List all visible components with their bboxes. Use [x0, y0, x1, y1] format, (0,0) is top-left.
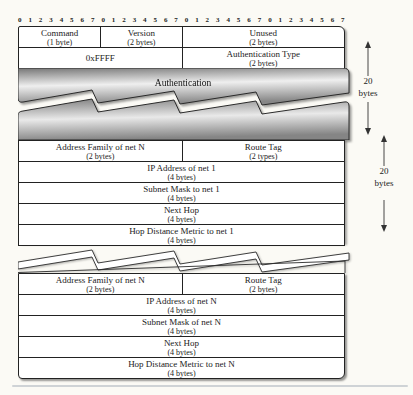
route-entry-1-table: Address Family of net N (2 bytes) Route …: [18, 140, 345, 246]
field-version: Version (2 bytes): [100, 27, 181, 47]
field-size: (4 bytes): [19, 215, 344, 224]
bit-number: 5: [237, 15, 241, 25]
field-address-family: Address Family of net N (2 bytes): [19, 274, 182, 294]
bottom-divider-line: [12, 385, 408, 387]
bit-number: 2: [206, 15, 210, 25]
bit-number: 6: [81, 15, 85, 25]
field-next-hop: Next Hop (4 bytes): [19, 203, 344, 224]
field-address-family: Address Family of net N (2 bytes): [19, 141, 182, 161]
tear-ribbon-shape: [18, 250, 349, 272]
bit-ruler: 01234567012345670123456701234567: [18, 15, 345, 25]
bit-number: 5: [320, 15, 324, 25]
bit-number: 4: [226, 15, 230, 25]
bit-number: 0: [185, 15, 189, 25]
field-label: Address Family of net N: [19, 275, 182, 285]
field-size: (2 bytes): [19, 285, 182, 294]
field-hop-distance-metric: Hop Distance Metric to net N (4 bytes): [19, 357, 344, 378]
route-entry-n-table: Address Family of net N (2 bytes) Route …: [18, 273, 345, 379]
size-label-1-value: 20: [351, 76, 385, 87]
field-label: Command: [19, 28, 100, 38]
field-subnet-mask: Subnet Mask of net N (4 bytes): [19, 315, 344, 336]
field-label: Version: [101, 28, 181, 38]
bit-number: 6: [331, 15, 335, 25]
field-next-hop: Next Hop (4 bytes): [19, 336, 344, 357]
size-label-2-unit: bytes: [367, 178, 401, 189]
authentication-torn-band: Authentication: [18, 68, 358, 140]
bit-number: 1: [112, 15, 116, 25]
entryN-row-1: Address Family of net N (2 bytes) Route …: [19, 274, 344, 294]
field-size: (4 bytes): [19, 194, 344, 203]
field-label: Unused: [183, 28, 345, 38]
field-label: Subnet Mask of net N: [19, 317, 344, 327]
field-size: (2 bytes): [183, 38, 345, 47]
field-size: (2 bytes): [183, 59, 345, 68]
field-0xffff: 0xFFFF: [19, 48, 182, 68]
auth-band-lower-shape: [18, 99, 349, 140]
bit-number: 5: [153, 15, 157, 25]
field-authentication-type: Authentication Type (2 bytes): [182, 48, 345, 68]
size-label-1-unit: bytes: [351, 88, 385, 99]
header-table: Command (1 byte) Version (2 bytes) Unuse…: [18, 26, 345, 69]
bit-number: 1: [279, 15, 283, 25]
field-label: Next Hop: [19, 338, 344, 348]
bit-number: 7: [258, 15, 262, 25]
bit-number: 4: [60, 15, 64, 25]
bit-number: 4: [143, 15, 147, 25]
field-label: Next Hop: [19, 205, 344, 215]
bit-number: 4: [310, 15, 314, 25]
field-label: Route Tag: [183, 142, 345, 152]
bit-number: 1: [28, 15, 32, 25]
size-label-2-value: 20: [367, 166, 401, 177]
bit-number: 3: [216, 15, 220, 25]
bit-number: 0: [101, 15, 105, 25]
field-unused: Unused (2 bytes): [182, 27, 345, 47]
continuation-tear: [18, 242, 358, 273]
field-size: (4 bytes): [19, 173, 344, 182]
bit-number: 7: [91, 15, 95, 25]
header-row-1: Command (1 byte) Version (2 bytes) Unuse…: [19, 27, 344, 47]
bit-number: 7: [174, 15, 178, 25]
field-label: 0xFFFF: [19, 53, 182, 63]
field-size: (1 byte): [19, 38, 100, 47]
field-label: Address Family of net N: [19, 142, 182, 152]
field-label: Route Tag: [183, 275, 345, 285]
field-route-tag: Route Tag (2 bytes): [182, 274, 345, 294]
bit-number: 7: [341, 15, 345, 25]
field-size: (4 bytes): [19, 327, 344, 336]
field-label: Hop Distance Metric to net 1: [19, 226, 344, 236]
field-size: (2 bytes): [101, 38, 181, 47]
bit-number: 5: [70, 15, 74, 25]
field-route-tag: Route Tag (2 types): [182, 141, 345, 161]
field-size: (4 bytes): [19, 306, 344, 315]
byte-size-arrows: [350, 36, 413, 236]
field-size: (4 bytes): [19, 348, 344, 357]
field-ip-address: IP Address of net 1 (4 bytes): [19, 161, 344, 182]
field-command: Command (1 byte): [19, 27, 100, 47]
field-size: (4 bytes): [19, 369, 344, 378]
bit-number: 6: [164, 15, 168, 25]
bit-number: 2: [289, 15, 293, 25]
header-row-2: 0xFFFF Authentication Type (2 bytes): [19, 47, 344, 68]
field-size: (2 bytes): [183, 285, 345, 294]
bit-number: 2: [39, 15, 43, 25]
bit-number: 6: [247, 15, 251, 25]
field-label: IP Address of net N: [19, 296, 344, 306]
field-label: Hop Distance Metric to net N: [19, 359, 344, 369]
bit-number: 3: [299, 15, 303, 25]
auth-band-label: Authentication: [155, 78, 212, 88]
field-label: Authentication Type: [183, 49, 345, 59]
field-ip-address: IP Address of net N (4 bytes): [19, 294, 344, 315]
field-label: IP Address of net 1: [19, 163, 344, 173]
bit-number: 2: [122, 15, 126, 25]
entry1-row-1: Address Family of net N (2 bytes) Route …: [19, 141, 344, 161]
bit-number: 1: [195, 15, 199, 25]
bit-number: 0: [18, 15, 22, 25]
bit-number: 3: [49, 15, 53, 25]
field-label: Subnet Mask to net 1: [19, 184, 344, 194]
field-subnet-mask: Subnet Mask to net 1 (4 bytes): [19, 182, 344, 203]
bit-number: 0: [268, 15, 272, 25]
field-size: (2 types): [183, 152, 345, 161]
field-size: (2 bytes): [19, 152, 182, 161]
bit-number: 3: [133, 15, 137, 25]
